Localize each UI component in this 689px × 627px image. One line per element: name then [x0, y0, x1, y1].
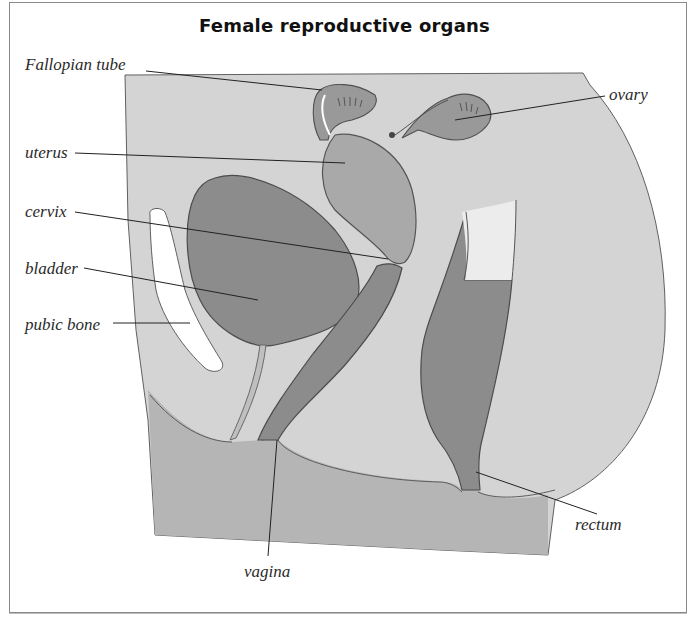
label-pubic-bone: pubic bone — [25, 316, 100, 333]
label-vagina: vagina — [244, 563, 290, 580]
label-ovary: ovary — [609, 86, 648, 103]
label-bladder: bladder — [25, 260, 78, 277]
label-uterus: uterus — [25, 144, 68, 161]
label-rectum: rectum — [575, 516, 622, 533]
label-cervix: cervix — [25, 203, 67, 220]
label-fallopian-tube: Fallopian tube — [25, 56, 126, 73]
